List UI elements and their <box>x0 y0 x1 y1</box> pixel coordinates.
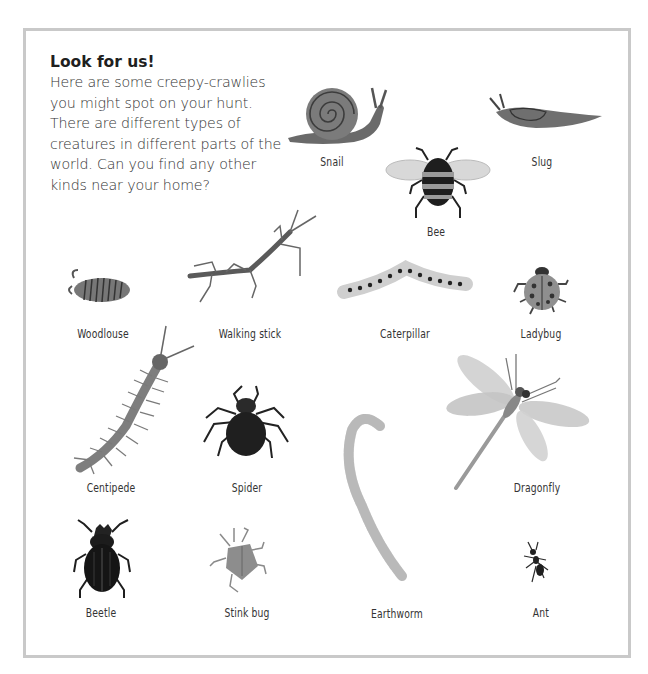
centipede-label: Centipede <box>87 480 136 495</box>
intro-heading: Look for us! <box>50 52 290 72</box>
ant-label: Ant <box>533 605 549 620</box>
intro-block: Look for us! Here are some creepy-crawli… <box>50 52 290 195</box>
bee-icon <box>386 146 490 222</box>
walking-stick-label: Walking stick <box>219 326 282 341</box>
walking-stick-icon <box>186 206 320 306</box>
stink-bug-icon <box>208 526 274 592</box>
beetle-icon <box>70 520 134 600</box>
caterpillar-label: Caterpillar <box>380 326 430 341</box>
ladybug-icon <box>512 262 572 316</box>
spider-label: Spider <box>232 480 263 495</box>
beetle-label: Beetle <box>86 605 117 620</box>
slug-label: Slug <box>532 154 553 169</box>
dragonfly-label: Dragonfly <box>514 480 561 495</box>
bee-label: Bee <box>427 224 445 239</box>
stink-bug-label: Stink bug <box>224 605 269 620</box>
snail-icon <box>284 82 388 146</box>
intro-body: Here are some creepy-crawlies you might … <box>50 72 290 195</box>
snail-label: Snail <box>320 154 343 169</box>
slug-icon <box>486 92 606 134</box>
centipede-icon <box>66 326 196 476</box>
spider-icon <box>200 386 292 466</box>
caterpillar-icon <box>340 262 470 302</box>
earthworm-label: Earthworm <box>371 606 423 621</box>
earthworm-icon <box>340 406 430 582</box>
ladybug-label: Ladybug <box>521 326 562 341</box>
ant-icon <box>522 542 552 586</box>
woodlouse-icon <box>64 266 134 306</box>
dragonfly-icon <box>446 352 592 492</box>
